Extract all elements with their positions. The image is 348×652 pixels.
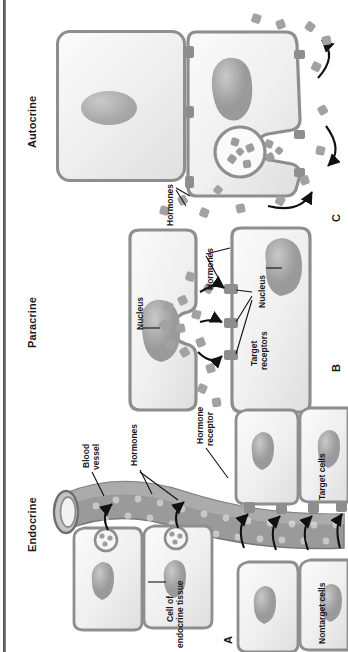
paracrine-target-nucleus (265, 238, 302, 296)
label-nontarget-cells: Nontarget cells (318, 583, 328, 644)
panel-title-paracrine: Paracrine (26, 297, 38, 348)
label-nucleus-b-top: Nucleus (136, 297, 146, 330)
label-cell-of-line2: endocrine tissue (176, 580, 186, 648)
label-hormone-receptor-line2: receptor (206, 412, 216, 446)
label-hormones-a: Hormones (130, 424, 140, 466)
label-blood-vessel-line2: vessel (92, 444, 102, 470)
hormone-signaling-figure: Autocrine C (0, 0, 348, 652)
paracrine-diffusion-arrows (198, 286, 224, 360)
label-hormones-c: Hormones (166, 184, 176, 226)
autocrine-cell-svg (0, 0, 348, 652)
panel-letter-b: B (330, 364, 342, 372)
vessel-lumen-inner (61, 497, 76, 527)
label-target-cells: Target cells (318, 453, 328, 500)
label-nucleus-b-bottom: Nucleus (258, 275, 268, 308)
label-target-receptors-line2: receptors (260, 331, 270, 370)
endocrine-granule-pocket-1 (95, 529, 117, 551)
autocrine-exocytosis-granules (264, 139, 284, 162)
panel-title-endocrine: Endocrine (26, 497, 38, 552)
label-hormones-b: Hormones (206, 248, 216, 290)
endocrine-granule-pocket-2 (165, 527, 187, 549)
panel-letter-a: A (222, 636, 234, 644)
